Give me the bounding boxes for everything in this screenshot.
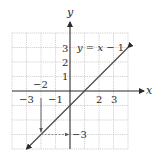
- x-tick-label: −3: [19, 94, 34, 105]
- x-tick-label: 3: [111, 94, 117, 105]
- x-tick-label: −1: [48, 94, 63, 105]
- equation-label: y = x − 1: [76, 42, 124, 53]
- y-tick-label: 3: [62, 43, 68, 54]
- output-value-label: −3: [72, 129, 87, 140]
- x-tick-label: 2: [96, 94, 102, 105]
- input-value-label: −2: [33, 79, 48, 90]
- y-axis-label: y: [66, 6, 74, 19]
- y-tick-label: 2: [62, 57, 68, 68]
- x-axis-label: x: [146, 84, 153, 97]
- y-tick-label: 1: [62, 71, 68, 82]
- graph-canvas: x y −3 −1 2 3 3 2 1 y = x − 1 −2 −3: [0, 0, 154, 157]
